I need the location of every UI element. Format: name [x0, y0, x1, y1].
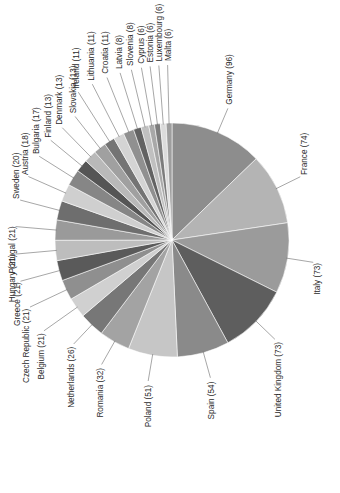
- slice-label: Czech Republic (21): [22, 309, 31, 383]
- leader-line: [255, 320, 275, 339]
- leader-line: [203, 352, 210, 378]
- leader-line: [51, 140, 83, 166]
- slice-label: Spain (54): [207, 381, 216, 419]
- slice-label: Romania (32): [96, 368, 105, 418]
- slice-label: Ireland (11): [72, 47, 81, 89]
- leader-line: [102, 341, 115, 365]
- pie-slices: [55, 123, 289, 357]
- slice-label: Portugal (21): [8, 226, 17, 274]
- slice-label: Luxembourg (6): [155, 3, 164, 61]
- leader-line: [150, 66, 157, 125]
- slice-label: Bulgaria (17): [32, 107, 41, 154]
- leader-line: [78, 92, 110, 142]
- leader-line: [92, 84, 119, 137]
- leader-line: [217, 108, 228, 133]
- leader-line: [276, 177, 300, 189]
- leader-line: [28, 177, 66, 194]
- slice-label: Poland (51): [144, 385, 153, 428]
- slice-label: Italy (73): [313, 263, 322, 295]
- leader-line: [168, 65, 169, 124]
- slice-label: United Kingdom (73): [274, 342, 283, 417]
- slice-label: Cyprus (6): [137, 25, 146, 63]
- slice-label: Malta (6): [164, 28, 173, 61]
- pie-chart: Germany (96)France (74)Italy (73)United …: [0, 0, 340, 493]
- leader-line: [74, 324, 93, 344]
- slice-label: Slovenia (8): [126, 22, 135, 66]
- leader-line: [148, 354, 153, 381]
- slice-label: Austria (18): [21, 132, 30, 175]
- slice-label: Germany (96): [225, 54, 234, 105]
- leader-line: [16, 227, 57, 231]
- leader-line: [107, 78, 129, 133]
- slice-label: Netherlands (26): [67, 347, 76, 408]
- leader-line: [159, 66, 163, 125]
- leader-line: [286, 258, 313, 262]
- slice-label: Denmark (13): [55, 75, 64, 125]
- leader-line: [21, 270, 61, 281]
- leader-line: [62, 128, 91, 157]
- chart-figure: Germany (96)France (74)Italy (73)United …: [0, 0, 340, 493]
- slice-label: France (74): [300, 132, 309, 175]
- slice-label: Latvia (8): [115, 35, 124, 69]
- slice-label: Belgium (21): [37, 333, 46, 380]
- leader-line: [120, 73, 138, 130]
- slice-label: Lithuania (11): [87, 31, 96, 81]
- leader-line: [44, 307, 78, 331]
- leader-line: [16, 250, 57, 254]
- slice-label: Finland (13): [44, 94, 53, 138]
- slice-label: Croatia (11): [101, 31, 110, 74]
- leader-line: [39, 156, 74, 178]
- slice-label: Estonia (6): [146, 23, 155, 63]
- leader-line: [20, 200, 60, 210]
- leader-line: [30, 289, 67, 307]
